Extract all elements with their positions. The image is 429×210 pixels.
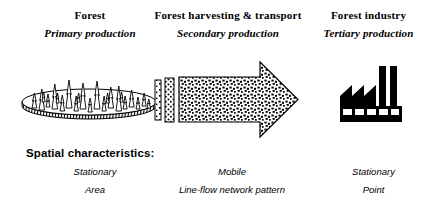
attributes-forest-industry: Stationary Point xyxy=(318,166,429,196)
factory-icon xyxy=(330,64,412,126)
attribute-spatial-form: Area xyxy=(30,184,160,196)
column-title: Forest industry xyxy=(308,8,429,22)
attribute-spatial-form: Line-flow network pattern xyxy=(152,184,312,196)
column-header-forest-industry: Forest industry Tertiary production xyxy=(308,8,429,40)
attribute-mobility: Stationary xyxy=(30,166,160,178)
speckled-right-arrow-icon xyxy=(152,58,302,140)
attribute-mobility: Stationary xyxy=(318,166,429,178)
column-header-forest: Forest Primary production xyxy=(22,8,158,40)
column-header-harvesting-transport: Forest harvesting & transport Secondary … xyxy=(148,8,308,40)
column-subtitle: Tertiary production xyxy=(308,26,429,40)
column-subtitle: Primary production xyxy=(22,26,158,40)
column-title: Forest xyxy=(22,8,158,22)
column-title: Forest harvesting & transport xyxy=(148,8,308,22)
attribute-mobility: Mobile xyxy=(152,166,312,178)
spatial-characteristics-label: Spatial characteristics: xyxy=(26,146,154,160)
attributes-forest: Stationary Area xyxy=(30,166,160,196)
attribute-spatial-form: Point xyxy=(318,184,429,196)
attributes-harvesting-transport: Mobile Line-flow network pattern xyxy=(152,166,312,196)
forest-disk-with-trees-icon xyxy=(20,62,158,124)
column-subtitle: Secondary production xyxy=(148,26,308,40)
diagram-canvas: Forest Primary production Forest harvest… xyxy=(0,0,429,210)
